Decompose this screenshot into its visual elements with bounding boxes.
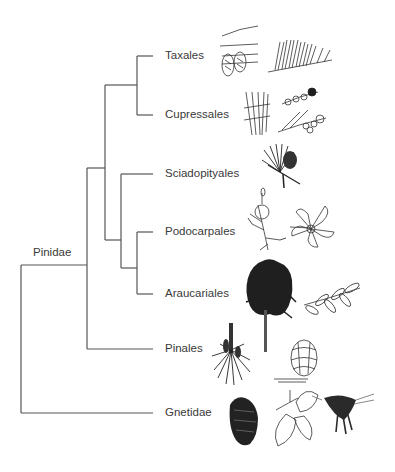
pine-shoot-sketch-icon bbox=[212, 323, 250, 385]
gnetum-leaves-sketch-icon bbox=[275, 390, 318, 446]
phylogeny-diagram: Pinidae Taxales Cupressales Sciadopityal… bbox=[0, 0, 395, 472]
yew-cone-sketch-icon bbox=[220, 26, 258, 76]
cypress-cone-shoot-sketch-icon bbox=[278, 88, 326, 133]
yew-shoot-sketch-icon bbox=[268, 40, 332, 72]
pine-cone-sketch-icon bbox=[274, 340, 317, 382]
gnetum-cone-sketch-icon bbox=[230, 397, 258, 445]
umbrella-pine-shoot-sketch-icon bbox=[262, 144, 300, 188]
araucaria-leafy-shoot-sketch-icon bbox=[304, 281, 360, 316]
podocarp-shoot-sketch-icon bbox=[248, 188, 286, 250]
welwitschia-sketch-icon bbox=[312, 394, 374, 434]
illustrations bbox=[0, 0, 395, 472]
podocarp-leaf-whorl-sketch-icon bbox=[290, 206, 334, 247]
cypress-needles-sketch-icon bbox=[244, 92, 270, 135]
araucaria-tree-sketch-icon bbox=[246, 259, 296, 352]
